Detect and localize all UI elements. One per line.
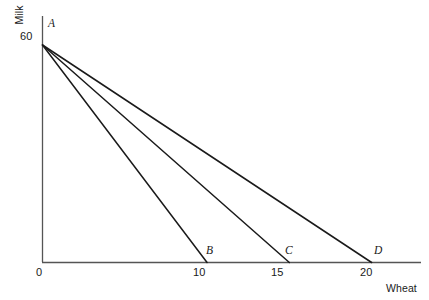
series-lines-group — [43, 45, 372, 263]
series-line-ab — [43, 45, 208, 263]
ppf-chart-figure: Milk 60 A B C D 0 10 15 20 Wheat — [0, 0, 429, 300]
y-axis-title: Milk — [14, 5, 25, 24]
x-axis-title: Wheat — [386, 283, 417, 294]
point-label-c: C — [285, 245, 293, 257]
point-label-a: A — [48, 18, 55, 30]
series-line-ac — [43, 45, 290, 263]
x-tick-label-0: 0 — [36, 267, 42, 278]
series-line-ad — [43, 45, 372, 263]
x-tick-label-15: 15 — [271, 267, 283, 278]
y-tick-label-60: 60 — [20, 31, 32, 42]
chart-plot-area — [0, 0, 429, 300]
point-label-d: D — [374, 245, 382, 257]
x-tick-label-20: 20 — [360, 267, 372, 278]
point-label-b: B — [206, 245, 213, 257]
x-tick-label-10: 10 — [193, 267, 205, 278]
